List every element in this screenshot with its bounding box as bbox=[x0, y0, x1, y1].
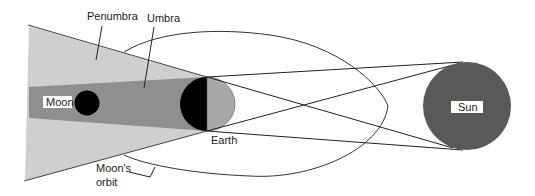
diagram-canvas: Moon Earth Sun Penumbra Umbra Moon's orb… bbox=[0, 0, 535, 196]
earth-day-side bbox=[207, 77, 235, 131]
orbit-label-line1: Moon's bbox=[96, 162, 132, 174]
moon bbox=[75, 91, 100, 116]
orbit-label-line2: orbit bbox=[96, 176, 117, 188]
lunar-eclipse-diagram: Moon Earth Sun Penumbra Umbra Moon's orb… bbox=[0, 0, 535, 196]
penumbra-label: Penumbra bbox=[87, 10, 139, 22]
moon-label: Moon bbox=[46, 96, 74, 108]
umbra-label: Umbra bbox=[147, 12, 181, 24]
orbit-pointer bbox=[129, 167, 155, 177]
sun-label: Sun bbox=[458, 101, 478, 113]
earth-label: Earth bbox=[211, 134, 237, 146]
